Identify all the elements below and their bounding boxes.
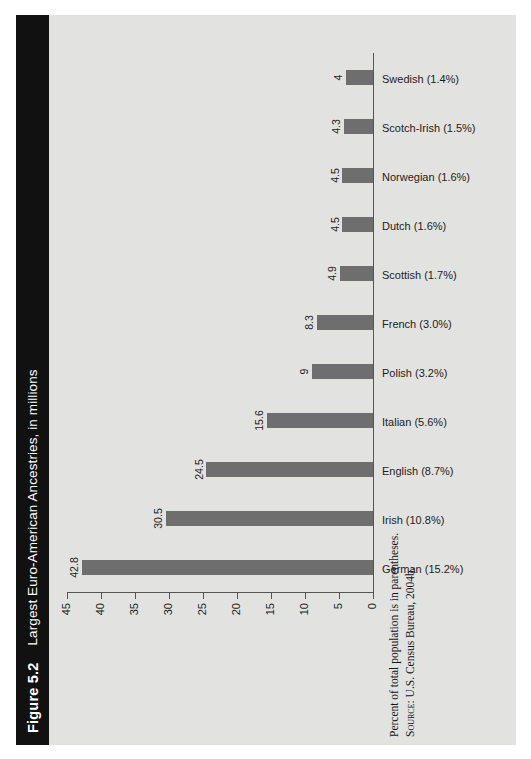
bar-slot: 24.5 [67,445,373,494]
category-label-cell: Scotch-Irish (1.5%) [378,102,503,151]
y-axis-tick [373,593,374,599]
figure-number-label: Figure 5.2 [24,662,40,733]
category-label: Scotch-Irish (1.5%) [382,122,476,134]
category-label: Polish (3.2%) [382,367,447,379]
rotated-figure-container: Figure 5.2 Largest Euro-American Ancestr… [16,15,516,745]
bar-value-label: 4.3 [331,119,342,134]
bar [311,364,372,379]
bar-slot: 30.5 [67,494,373,543]
y-axis-tick [237,593,238,599]
footnote-source: Source: U.S. Census Bureau, 2004b. [402,407,418,737]
source-label: Source: [403,700,415,737]
y-axis-tick [271,593,272,599]
y-axis-tick-label: 15 [264,603,276,629]
bar-value-label: 4 [333,74,344,80]
y-axis-tick-label: 40 [94,603,106,629]
category-label: French (3.0%) [382,318,452,330]
bar [339,266,372,281]
bar [342,168,373,183]
bar-value-label: 4.5 [329,217,340,232]
figure-page: Figure 5.2 Largest Euro-American Ancestr… [0,0,531,759]
bar-value-label: 24.5 [193,459,204,479]
bar-value-label: 42.8 [69,557,80,577]
category-label-cell: Scottish (1.7%) [378,249,503,298]
y-axis-tick-label: 5 [332,603,344,629]
y-axis-tick-label: 30 [162,603,174,629]
bar-slot: 9 [67,347,373,396]
category-label: Swedish (1.4%) [382,73,459,85]
bar-value-label: 9 [299,368,310,374]
footnote-note: Percent of total population is in parent… [387,407,403,737]
bar-slot: 4.5 [67,151,373,200]
y-axis-tick-label: 0 [366,603,378,629]
category-label: Norwegian (1.6%) [382,171,470,183]
y-axis-tick [101,593,102,599]
bar-slot: 4 [67,53,373,102]
bar-value-label: 15.6 [254,410,265,430]
bar-value-label: 30.5 [153,508,164,528]
y-axis-tick-label: 10 [298,603,310,629]
figure-title: Largest Euro-American Ancestries, in mil… [25,369,40,645]
category-label-cell: Dutch (1.6%) [378,200,503,249]
bar [266,413,372,428]
bar-value-label: 8.3 [304,315,315,330]
category-label: Scottish (1.7%) [382,269,457,281]
y-axis-tick [339,593,340,599]
category-label-cell: French (3.0%) [378,298,503,347]
bar-slot: 4.9 [67,249,373,298]
figure: Figure 5.2 Largest Euro-American Ancestr… [16,15,516,745]
bar-value-label: 4.5 [329,168,340,183]
category-label-cell: Polish (3.2%) [378,347,503,396]
source-text: U.S. Census Bureau, 2004b. [403,567,415,697]
y-axis-tick-label: 35 [128,603,140,629]
bar [345,70,372,85]
bar [342,217,373,232]
bar-value-label: 4.9 [327,266,338,281]
bar-series: 42.830.524.515.698.34.94.54.54.34 [67,53,373,592]
y-axis-tick-label: 25 [196,603,208,629]
bar-slot: 8.3 [67,298,373,347]
y-axis-tick [169,593,170,599]
bar-slot: 4.5 [67,200,373,249]
y-axis-tick [203,593,204,599]
y-axis-tick [305,593,306,599]
chart-plot-area: 051015202530354045 42.830.524.515.698.34… [49,15,516,745]
bar [316,315,372,330]
bar-slot: 15.6 [67,396,373,445]
figure-title-bar: Figure 5.2 Largest Euro-American Ancestr… [16,15,49,745]
bar [343,119,372,134]
bar [206,462,373,477]
category-label-cell: Swedish (1.4%) [378,53,503,102]
bar [81,560,372,575]
y-axis-tick-label: 20 [230,603,242,629]
bar-slot: 4.3 [67,102,373,151]
y-axis-tick [67,593,68,599]
figure-footnote: Percent of total population is in parent… [387,407,418,737]
bar [165,511,372,526]
y-axis-tick-label: 45 [60,603,72,629]
y-axis-tick [135,593,136,599]
category-label: Dutch (1.6%) [382,220,446,232]
category-label-cell: Norwegian (1.6%) [378,151,503,200]
bar-slot: 42.8 [67,543,373,592]
